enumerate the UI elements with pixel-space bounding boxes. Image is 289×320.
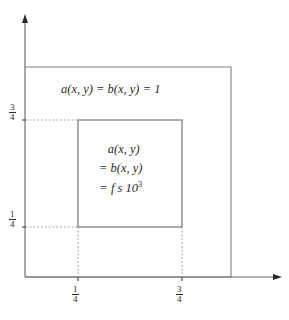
inner-region-label-line-2: = b(x, y) (99, 159, 142, 178)
x-tick-3-4-denominator: 4 (176, 294, 183, 304)
x-axis-tick-label-3-4: 3 4 (176, 285, 183, 304)
y-tick-1-4-denominator: 4 (9, 219, 16, 229)
inner-region-label-line-3: = f s 103 (99, 179, 142, 198)
y-tick-1-4-numerator: 1 (9, 210, 16, 219)
diagram-vector-layer (0, 0, 289, 320)
x-tick-1-4-numerator: 1 (72, 285, 79, 294)
y-axis-tick-label-3-4: 3 4 (9, 103, 16, 122)
inner-region-label: a(x, y) = b(x, y) = f s 103 (99, 140, 142, 198)
y-tick-3-4-numerator: 3 (9, 103, 16, 112)
x-tick-3-4-numerator: 3 (176, 285, 183, 294)
axis-lines (22, 14, 282, 280)
outer-region-label: a(x, y) = b(x, y) = 1 (61, 80, 160, 99)
inner-region-label-line-1: a(x, y) (99, 140, 142, 159)
inner-region-label-line-3-base: = f s 10 (99, 181, 138, 195)
y-axis-tick-label-1-4: 1 4 (9, 210, 16, 229)
x-tick-1-4-denominator: 4 (72, 294, 79, 304)
inner-region-label-line-3-exponent: 3 (138, 180, 142, 189)
x-axis-tick-label-1-4: 1 4 (72, 285, 79, 304)
x-axis-arrowhead (273, 274, 282, 280)
y-tick-3-4-denominator: 4 (9, 112, 16, 122)
figure-canvas: a(x, y) = b(x, y) = 1 a(x, y) = b(x, y) … (0, 0, 289, 320)
y-axis-arrowhead (22, 14, 28, 23)
